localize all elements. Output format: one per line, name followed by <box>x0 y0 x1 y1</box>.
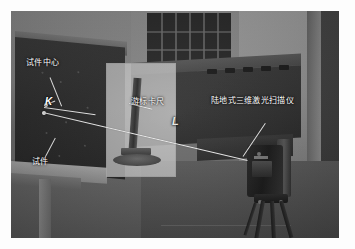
caliper-base <box>113 154 161 166</box>
figure-container: 试件中心 K 试件 游标卡尺 陆地式三维激光扫描仪 L <box>0 0 355 249</box>
label-specimen: 试件 <box>32 155 49 166</box>
label-specimen-center: 试件中心 <box>26 56 59 67</box>
caliper-inset-panel <box>106 63 176 177</box>
scanner-control-panel <box>252 161 272 177</box>
caliper-beam <box>128 78 141 152</box>
door-opening <box>321 11 339 179</box>
label-laser-scanner: 陆地式三维激光扫描仪 <box>211 94 294 105</box>
bench-leg <box>39 179 51 238</box>
label-vernier-caliper: 游标卡尺 <box>131 95 164 106</box>
label-point-k: K <box>45 96 52 107</box>
label-distance-l: L <box>172 115 179 127</box>
scanner-brand-label <box>254 156 268 159</box>
